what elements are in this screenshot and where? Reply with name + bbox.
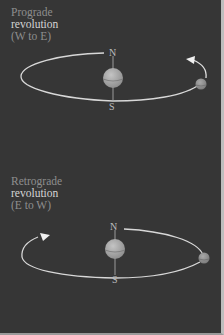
south-pole-label: S bbox=[112, 274, 118, 285]
orbiting-body-icon bbox=[196, 79, 207, 90]
south-pole-label: S bbox=[109, 101, 115, 112]
prograde-orbit-diagram: N S bbox=[0, 0, 221, 165]
orbit-path-back bbox=[124, 229, 203, 255]
north-pole-label: N bbox=[110, 221, 117, 232]
direction-arc bbox=[193, 60, 206, 78]
retrograde-orbit-diagram: N S bbox=[0, 167, 221, 333]
prograde-panel: Prograde revolution (W to E) N S bbox=[0, 0, 221, 165]
central-body-icon bbox=[103, 68, 123, 88]
direction-arrow-icon bbox=[186, 56, 195, 64]
retrograde-panel: Retrograde revolution (E to W) N bbox=[0, 167, 221, 333]
direction-arrow-icon bbox=[40, 233, 50, 241]
figure-frame: Prograde revolution (W to E) N S bbox=[0, 0, 224, 335]
north-pole-label: N bbox=[109, 47, 116, 58]
orbiting-body-icon bbox=[199, 253, 210, 264]
central-body-icon bbox=[105, 239, 125, 259]
